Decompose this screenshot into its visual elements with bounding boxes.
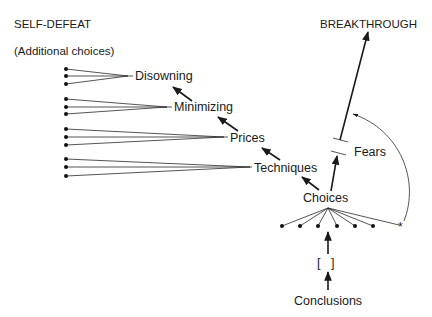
fan-line — [66, 129, 224, 137]
fan-line — [66, 137, 224, 145]
fan-group-minimizing: Minimizing — [64, 97, 233, 116]
label-disowning: Disowning — [135, 69, 193, 83]
fan-line — [66, 99, 167, 107]
fan-line — [66, 76, 128, 84]
choice-dot — [371, 224, 375, 228]
choice-dot — [64, 143, 68, 147]
choice-dot — [64, 112, 68, 116]
chain-arrow — [262, 148, 280, 160]
choice-dot — [316, 224, 320, 228]
conclusions-label: Conclusions — [294, 294, 362, 308]
choice-dot — [64, 74, 68, 78]
fears-label: Fears — [354, 145, 386, 159]
self-defeat-title: SELF-DEFEAT — [14, 18, 91, 30]
choices-label: Choices — [303, 191, 348, 205]
asterisk-icon: * — [398, 220, 403, 234]
choice-dot — [64, 97, 68, 101]
choice-fan-line — [318, 208, 328, 226]
choice-dot — [64, 135, 68, 139]
choice-dot — [64, 82, 68, 86]
choice-dot — [64, 67, 68, 71]
choice-fan-line — [282, 208, 328, 226]
additional-choices-subtitle: (Additional choices) — [14, 45, 115, 57]
choice-dot — [335, 224, 339, 228]
chain-arrow — [218, 117, 238, 131]
choice-dot — [280, 224, 284, 228]
self-defeat-breakthrough-diagram: SELF-DEFEAT (Additional choices) BREAKTH… — [0, 0, 432, 317]
choice-dot — [64, 165, 68, 169]
fan-groups: DisowningMinimizingPricesTechniques — [64, 67, 317, 178]
chain-arrow — [173, 87, 192, 101]
label-techniques: Techniques — [254, 161, 317, 175]
choice-dot — [64, 157, 68, 161]
chain-arrow — [302, 177, 319, 190]
fan-group-disowning: Disowning — [64, 67, 193, 86]
fan-line — [66, 107, 167, 114]
curved-arrow-asterisk-to-breakthrough — [353, 114, 409, 221]
fan-line — [66, 159, 250, 167]
choice-dot — [298, 224, 302, 228]
choice-dot — [353, 224, 357, 228]
breakthrough-title: BREAKTHROUGH — [320, 18, 417, 30]
choice-dot — [64, 127, 68, 131]
empty-bracket: [ ] — [317, 256, 334, 270]
choices-fan: * — [280, 208, 403, 234]
fan-line — [66, 167, 250, 176]
label-minimizing: Minimizing — [174, 100, 233, 114]
arrow-to-breakthrough — [340, 32, 368, 140]
label-prices: Prices — [230, 131, 265, 145]
arrow-choices-to-fears — [331, 156, 337, 191]
fears-barrier-bottom — [331, 151, 346, 155]
choice-dot — [64, 174, 68, 178]
fan-group-prices: Prices — [64, 127, 265, 147]
fan-line — [66, 69, 128, 76]
choice-dot — [64, 105, 68, 109]
